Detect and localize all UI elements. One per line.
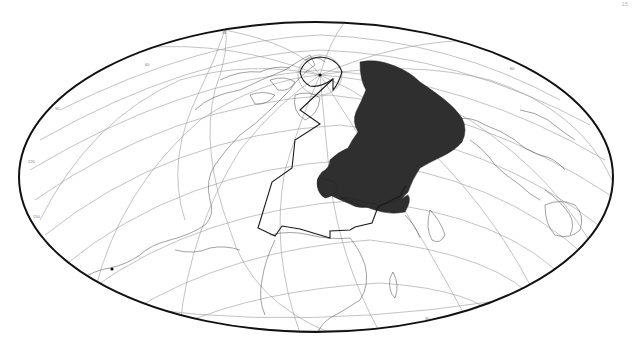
map-frame — [19, 22, 613, 332]
world-map: 30 60 90 120 150 0 30 60 — [0, 0, 638, 347]
svg-text:90: 90 — [55, 106, 60, 111]
svg-text:60: 60 — [145, 62, 150, 67]
shaded-region-europe-russia — [317, 61, 465, 210]
southern-dot — [110, 267, 113, 270]
svg-text:150: 150 — [33, 214, 40, 219]
pole-dot — [318, 73, 321, 76]
svg-text:60: 60 — [510, 66, 515, 71]
svg-text:120: 120 — [28, 159, 35, 164]
pole-cap-outline — [300, 57, 342, 90]
